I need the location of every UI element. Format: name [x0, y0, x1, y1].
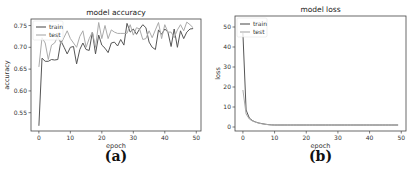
x-tick-label: 30: [334, 134, 342, 141]
y-tick-label: 0.55: [14, 109, 28, 116]
x-tick-label: 20: [302, 134, 310, 141]
x-tick-label: 30: [129, 134, 137, 141]
legend: traintest: [33, 21, 63, 40]
y-tick-label: 0.75: [14, 22, 28, 29]
series-line-train: [243, 33, 398, 125]
x-tick-label: 0: [241, 134, 245, 141]
plot-title: model loss: [300, 5, 340, 14]
legend: traintest: [237, 18, 267, 37]
series-line-test: [243, 90, 398, 125]
x-tick-label: 0: [37, 134, 41, 141]
legend-label-train: train: [253, 20, 267, 27]
figure-canvas: model accuracy010203040500.550.600.650.7…: [0, 0, 415, 171]
y-axis-label: accuracy: [3, 60, 11, 89]
x-tick-label: 40: [161, 134, 169, 141]
legend-label-train: train: [49, 23, 63, 30]
legend-label-test: test: [49, 31, 61, 38]
y-tick-label: 50: [223, 23, 231, 30]
figure-caption: (a): [105, 148, 127, 164]
y-tick-label: 0: [227, 123, 231, 130]
x-tick-label: 10: [67, 134, 75, 141]
figure-caption: (b): [309, 148, 332, 164]
legend-label-test: test: [253, 28, 265, 35]
y-tick-label: 0.65: [14, 65, 28, 72]
y-axis-label: loss: [214, 67, 222, 80]
x-tick-label: 50: [192, 134, 200, 141]
x-tick-label: 50: [397, 134, 405, 141]
y-tick-label: 10: [223, 103, 231, 110]
y-tick-label: 40: [223, 43, 231, 50]
x-tick-label: 20: [98, 134, 106, 141]
y-tick-label: 30: [223, 63, 231, 70]
x-tick-label: 40: [366, 134, 374, 141]
x-tick-label: 10: [271, 134, 279, 141]
y-tick-label: 0.70: [14, 43, 28, 50]
y-tick-label: 20: [223, 83, 231, 90]
loss-chart: model loss0102030405001020304050epochlos…: [214, 5, 406, 164]
accuracy-chart: model accuracy010203040500.550.600.650.7…: [3, 8, 201, 164]
y-tick-label: 0.60: [14, 87, 28, 94]
plot-title: model accuracy: [86, 8, 146, 17]
